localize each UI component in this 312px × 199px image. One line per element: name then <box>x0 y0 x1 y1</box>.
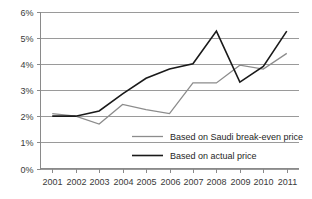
line-chart: 0%1%2%3%4%5%6% 2001200220032004200520062… <box>0 0 312 199</box>
x-tick-label-2010: 2010 <box>253 177 273 187</box>
x-tick-label-2003: 2003 <box>89 177 109 187</box>
x-tick-label-2006: 2006 <box>160 177 180 187</box>
x-tick-label-2001: 2001 <box>42 177 62 187</box>
x-tick-label-2007: 2007 <box>183 177 203 187</box>
y-tick-label-4pct: 4% <box>20 60 33 70</box>
y-tick-label-1pct: 1% <box>20 138 33 148</box>
y-tick-label-0pct: 0% <box>20 165 33 175</box>
x-tick-label-2005: 2005 <box>136 177 156 187</box>
y-tick-label-5pct: 5% <box>20 34 33 44</box>
x-tick-label-2009: 2009 <box>230 177 250 187</box>
y-tick-label-3pct: 3% <box>20 86 33 96</box>
y-tick-label-6pct: 6% <box>20 8 33 18</box>
x-tick-label-2008: 2008 <box>206 177 226 187</box>
chart-canvas: 0%1%2%3%4%5%6% 2001200220032004200520062… <box>0 0 312 199</box>
legend-label-saudi-break-even-price: Based on Saudi break-even price <box>170 132 303 142</box>
x-tick-label-2002: 2002 <box>66 177 86 187</box>
legend-label-actual-price: Based on actual price <box>170 151 257 161</box>
x-tick-label-2004: 2004 <box>113 177 133 187</box>
x-tick-label-2011: 2011 <box>278 177 297 187</box>
y-tick-label-2pct: 2% <box>20 112 33 122</box>
